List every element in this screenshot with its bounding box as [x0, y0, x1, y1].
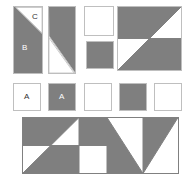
tile-white-square — [79, 118, 107, 174]
unit-square-gray-a: A — [48, 83, 76, 111]
unit-square-white-1 — [84, 83, 112, 111]
piece-b-c: B C — [13, 6, 43, 74]
piece-gray-square-small — [86, 41, 114, 69]
unit-square-white-1-shape — [85, 84, 112, 111]
tile2-white-lower — [79, 146, 107, 174]
unit-square-gray-1 — [119, 83, 147, 111]
tile-pinwheel-large — [23, 118, 80, 174]
unit-square-white-2-shape — [155, 84, 182, 111]
unit-square-white-2 — [154, 83, 182, 111]
piece4-gray-square-shape — [87, 42, 114, 69]
unit-square-gray-a-shape — [49, 84, 76, 111]
bottom-composite-strip — [22, 117, 179, 174]
piece-gray-with-bottom-white-triangle — [48, 6, 76, 74]
tile2-gray-upper — [79, 118, 107, 146]
unit-square-white-a-shape — [14, 84, 41, 111]
piece-large-pinwheel-square — [117, 6, 182, 71]
piece-white-square — [84, 6, 114, 36]
unit-square-gray-1-shape — [120, 84, 147, 111]
figure-canvas: B C — [0, 0, 188, 177]
unit-square-white-a: A — [13, 83, 41, 111]
piece3-white-square-shape — [85, 7, 114, 36]
